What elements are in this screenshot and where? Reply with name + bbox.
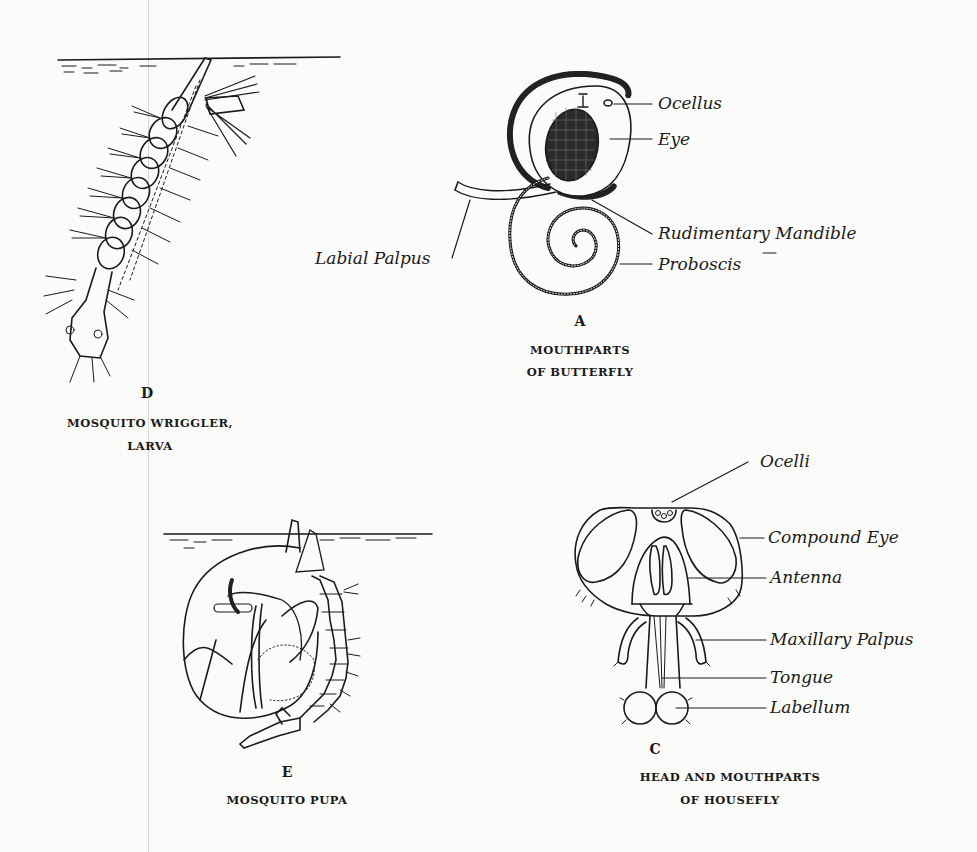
figure-letter-d: D (127, 385, 167, 401)
caption-butterfly-line2: OF BUTTERFLY (490, 362, 670, 382)
housefly-head-illustration (575, 462, 766, 724)
caption-larva-line2: LARVA (30, 436, 270, 456)
label-tongue: Tongue (770, 669, 833, 686)
caption-larva-line1: MOSQUITO WRIGGLER, (30, 413, 270, 433)
label-rudimentary-mandible: Rudimentary Mandible (658, 225, 857, 242)
label-compound-eye: Compound Eye (768, 529, 899, 546)
figure-letter-c: C (635, 741, 675, 757)
label-labellum: Labellum (770, 699, 850, 716)
mosquito-larva-illustration (44, 57, 340, 382)
caption-housefly-line1: HEAD AND MOUTHPARTS (600, 767, 860, 787)
mosquito-pupa-illustration (164, 520, 432, 748)
label-ocellus: Ocellus (658, 95, 722, 112)
label-maxillary-palpus: Maxillary Palpus (770, 631, 914, 648)
label-proboscis: Proboscis (658, 256, 741, 273)
figure-letter-a: A (560, 313, 600, 329)
figure-letter-e: E (267, 764, 307, 780)
label-labial-palpus: Labial Palpus (315, 250, 431, 267)
caption-butterfly-line1: MOUTHPARTS (490, 340, 670, 360)
label-eye: Eye (658, 131, 690, 148)
caption-pupa: MOSQUITO PUPA (187, 790, 387, 810)
caption-housefly-line2: OF HOUSEFLY (600, 790, 860, 810)
label-ocelli: Ocelli (760, 453, 810, 470)
label-antenna: Antenna (770, 569, 842, 586)
